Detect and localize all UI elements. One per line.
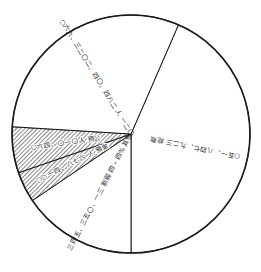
pie-chart: ○五一、八四七、九二三 総数三四五、三五〇、一三 割弱 四・四% 其他○○ 一四… — [0, 0, 261, 272]
